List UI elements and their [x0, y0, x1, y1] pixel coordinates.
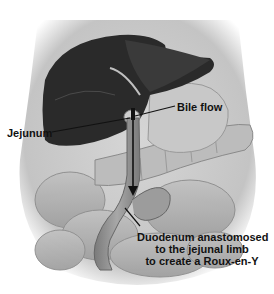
duodenum-label-line3: to create a Roux-en-Y — [137, 255, 267, 267]
duodenum-label-line2: to the jejunal limb — [137, 243, 267, 255]
bile-flow-label: Bile flow — [177, 101, 222, 113]
jejunum-label: Jejunum — [7, 127, 52, 139]
illustration: Jejunum Bile flow Duodenum anastomosed t… — [0, 0, 274, 294]
duodenum-label-line1: Duodenum anastomosed — [137, 231, 267, 243]
duodenum-label: Duodenum anastomosed to the jejunal limb… — [137, 231, 267, 267]
